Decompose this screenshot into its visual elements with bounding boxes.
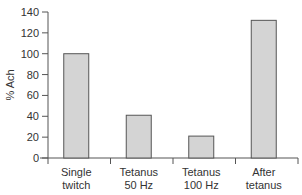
bar-single-twitch — [64, 54, 89, 158]
bar-tetanus-50-hz — [126, 115, 151, 158]
y-tick-label: 0 — [33, 152, 39, 164]
y-tick-label: 100 — [21, 48, 39, 60]
y-tick-label: 140 — [21, 6, 39, 18]
y-axis-label: % Ach — [4, 69, 16, 100]
x-category-label: 50 Hz — [124, 179, 153, 191]
x-category-label: Tetanus — [119, 166, 158, 178]
x-category-label: tetanus — [246, 179, 283, 191]
bar-chart: 020406080100120140% AchSingletwitchTetan… — [0, 0, 302, 195]
bar-after-tetanus — [251, 20, 276, 158]
bar-tetanus-100-hz — [189, 136, 214, 158]
x-category-label: 100 Hz — [184, 179, 219, 191]
x-category-label: Tetanus — [182, 166, 221, 178]
y-tick-label: 80 — [27, 69, 39, 81]
x-category-label: twitch — [62, 179, 90, 191]
x-category-label: Single — [61, 166, 92, 178]
y-tick-label: 20 — [27, 131, 39, 143]
x-category-label: After — [252, 166, 276, 178]
y-tick-label: 60 — [27, 89, 39, 101]
y-tick-label: 120 — [21, 27, 39, 39]
y-tick-label: 40 — [27, 110, 39, 122]
